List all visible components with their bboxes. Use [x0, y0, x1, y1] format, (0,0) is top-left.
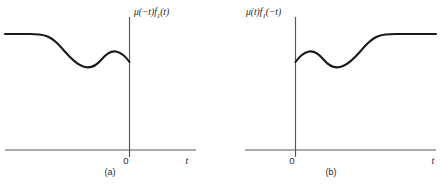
panel-b: μ(t)f1(−t) 0 t (b) — [221, 0, 441, 188]
panel-a-y-axis-label: μ(−t)f1(t) — [133, 7, 169, 19]
panel-b-origin-label: 0 — [289, 155, 294, 166]
figure-container: μ(−t)f1(t) 0 t (a) μ(t)f1(−t) 0 t (b) — [0, 0, 441, 188]
panel-a-signal-curve — [5, 34, 130, 67]
panel-a: μ(−t)f1(t) 0 t (a) — [0, 0, 220, 188]
panel-b-signal-curve — [296, 34, 437, 67]
panel-b-y-axis-label: μ(t)f1(−t) — [245, 7, 281, 19]
panel-a-x-axis-label: t — [186, 155, 189, 166]
panel-a-plot: μ(−t)f1(t) 0 t — [0, 0, 220, 188]
panel-a-origin-label: 0 — [123, 155, 128, 166]
panel-b-plot: μ(t)f1(−t) 0 t — [221, 0, 441, 188]
panel-a-caption: (a) — [0, 167, 220, 177]
panel-b-caption: (b) — [221, 167, 441, 177]
panel-b-x-axis-label: t — [432, 155, 435, 166]
